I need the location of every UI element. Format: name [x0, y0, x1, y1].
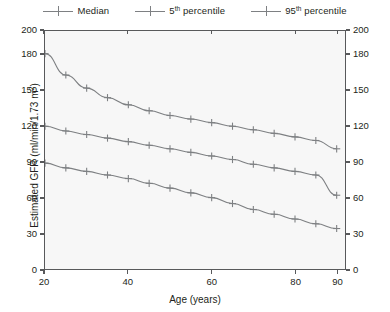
data-point-marker	[125, 175, 132, 182]
x-axis-tick-top	[211, 30, 212, 34]
x-axis-tick-top	[127, 30, 128, 34]
x-axis-tick-bottom	[337, 270, 338, 274]
data-point-marker	[271, 164, 278, 171]
x-axis-tick-bottom	[127, 270, 128, 274]
y-axis-tick-label-right: 0	[353, 265, 386, 275]
y-axis-tick-left	[40, 197, 44, 198]
data-point-marker	[83, 168, 90, 175]
data-point-marker	[312, 137, 319, 144]
data-point-marker	[250, 126, 257, 133]
plot-area	[44, 30, 346, 270]
series-median	[45, 123, 340, 199]
legend-label-5th-percentile: 5th percentile	[169, 6, 225, 16]
x-axis-tick-label: 20	[28, 277, 60, 287]
x-axis-tick-top	[43, 30, 44, 34]
x-axis-tick-top	[337, 30, 338, 34]
data-point-marker	[312, 171, 319, 178]
x-axis-tick-bottom	[43, 270, 44, 274]
data-point-marker	[333, 225, 340, 232]
x-axis-tick-label: 60	[196, 277, 228, 287]
y-axis-tick-right	[346, 269, 350, 270]
legend-line-marker-icon	[135, 6, 165, 16]
data-point-marker	[187, 115, 194, 122]
data-point-marker	[208, 194, 215, 201]
data-point-marker	[208, 152, 215, 159]
y-axis-tick-right	[346, 197, 350, 198]
legend-entry-5th-percentile[interactable]: 5th percentile	[135, 6, 225, 16]
y-axis-tick-label-left: 200	[4, 25, 37, 35]
data-point-marker	[146, 107, 153, 114]
x-axis-tick-top	[295, 30, 296, 34]
data-point-marker	[83, 131, 90, 138]
x-axis-tick-label: 90	[322, 277, 354, 287]
gfr-age-chart-figure: Median 5th percentile 95th percentile 00…	[0, 0, 390, 312]
y-axis-tick-right	[346, 53, 350, 54]
y-axis-tick-left	[40, 125, 44, 126]
y-axis-tick-left	[40, 161, 44, 162]
y-axis-tick-label-right: 180	[353, 49, 386, 59]
data-point-marker	[229, 156, 236, 163]
y-axis-tick-left	[40, 89, 44, 90]
data-point-marker	[229, 123, 236, 130]
data-point-marker	[333, 145, 340, 152]
data-point-marker	[146, 180, 153, 187]
data-point-marker	[291, 168, 298, 175]
y-axis-tick-right	[346, 233, 350, 234]
data-point-marker	[250, 161, 257, 168]
y-axis-tick-left	[40, 233, 44, 234]
data-point-marker	[229, 200, 236, 207]
legend-label-median: Median	[77, 6, 109, 16]
x-axis-tick-bottom	[211, 270, 212, 274]
y-axis-tick-right	[346, 29, 350, 30]
data-point-marker	[187, 149, 194, 156]
x-axis-tick-bottom	[295, 270, 296, 274]
series-5th-percentile	[45, 160, 340, 233]
data-point-marker	[271, 211, 278, 218]
y-axis-tick-label-right: 90	[353, 157, 386, 167]
y-axis-tick-label-right: 200	[353, 25, 386, 35]
data-point-marker	[45, 123, 49, 130]
data-point-marker	[166, 185, 173, 192]
legend-line-marker-icon	[251, 6, 281, 16]
y-axis-tick-right	[346, 89, 350, 90]
data-point-marker	[271, 130, 278, 137]
y-axis-tick-right	[346, 161, 350, 162]
data-point-marker	[187, 189, 194, 196]
y-axis-tick-label-right: 60	[353, 193, 386, 203]
y-axis-tick-label-right: 30	[353, 229, 386, 239]
data-point-marker	[104, 171, 111, 178]
data-point-marker	[83, 85, 90, 92]
data-point-marker	[208, 119, 215, 126]
data-point-marker	[45, 50, 49, 57]
data-point-marker	[250, 206, 257, 213]
data-point-marker	[333, 192, 340, 199]
data-point-marker	[312, 220, 319, 227]
data-point-marker	[146, 142, 153, 149]
legend-label-95th-percentile: 95th percentile	[285, 6, 346, 16]
data-point-marker	[166, 145, 173, 152]
data-point-marker	[62, 71, 69, 78]
chart-legend: Median 5th percentile 95th percentile	[0, 2, 390, 20]
series-layer	[45, 31, 345, 269]
data-point-marker	[45, 160, 49, 167]
data-point-marker	[104, 94, 111, 101]
data-point-marker	[104, 135, 111, 142]
legend-line-marker-icon	[43, 6, 73, 16]
y-axis-tick-right	[346, 125, 350, 126]
x-axis-title: Age (years)	[44, 294, 346, 305]
y-axis-tick-label-right: 120	[353, 121, 386, 131]
x-axis-tick-label: 40	[112, 277, 144, 287]
data-point-marker	[62, 164, 69, 171]
data-point-marker	[291, 215, 298, 222]
plot-canvas	[45, 31, 345, 269]
y-axis-tick-left	[40, 53, 44, 54]
data-point-marker	[291, 133, 298, 140]
legend-entry-median[interactable]: Median	[43, 6, 109, 16]
legend-entry-95th-percentile[interactable]: 95th percentile	[251, 6, 346, 16]
data-point-marker	[166, 112, 173, 119]
series-95th-percentile	[45, 50, 340, 152]
data-point-marker	[125, 138, 132, 145]
y-axis-title: Estimated GFR (ml/min/1.73 m2)	[29, 36, 40, 276]
data-point-marker	[62, 127, 69, 134]
x-axis-tick-label: 80	[280, 277, 312, 287]
